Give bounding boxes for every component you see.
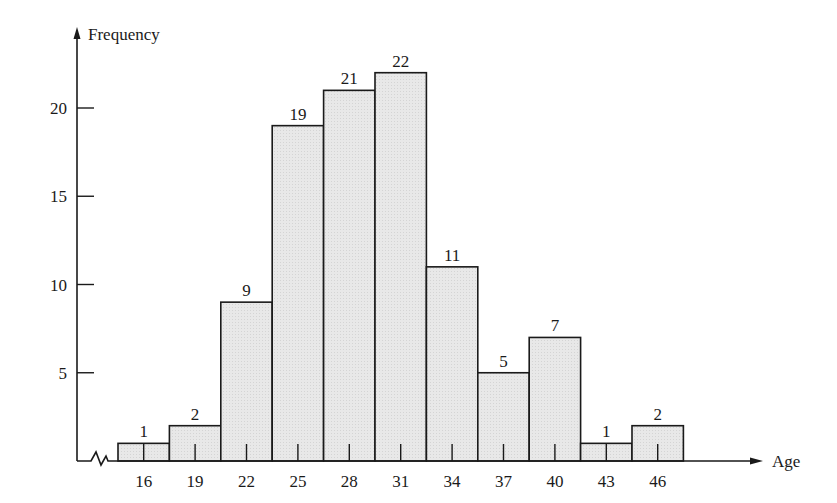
x-axis-arrow-icon	[750, 458, 763, 465]
x-tick-label: 22	[238, 472, 255, 491]
y-tick-label: 5	[59, 364, 68, 383]
bar-40	[529, 337, 580, 461]
y-axis-arrow-icon	[74, 27, 81, 39]
bar-34	[426, 267, 477, 461]
bar-value-label: 11	[444, 246, 460, 265]
x-tick-label: 40	[546, 472, 563, 491]
bars-group	[118, 73, 683, 461]
x-tick-label: 46	[649, 472, 666, 491]
bar-value-label: 5	[499, 352, 508, 371]
y-tick-label: 15	[50, 187, 67, 206]
histogram-chart: 129192122115712 1619222528313437404346 5…	[0, 0, 837, 503]
bar-22	[221, 302, 272, 461]
bar-28	[324, 90, 375, 461]
bar-value-label: 7	[551, 316, 560, 335]
y-tick-label: 20	[50, 99, 67, 118]
bar-value-label: 22	[392, 52, 409, 71]
bar-value-label: 2	[191, 405, 200, 424]
x-axis-title: Age	[772, 452, 800, 471]
bar-value-label: 1	[602, 422, 611, 441]
y-axis-title: Frequency	[88, 25, 160, 44]
x-tick-label: 28	[341, 472, 358, 491]
bar-value-label: 1	[139, 422, 148, 441]
bar-value-label: 19	[289, 105, 306, 124]
y-tick-label: 10	[50, 276, 67, 295]
x-tick-label: 43	[598, 472, 615, 491]
x-tick-label: 34	[444, 472, 462, 491]
bar-31	[375, 73, 426, 461]
bar-25	[272, 126, 323, 461]
x-tick-label: 19	[187, 472, 204, 491]
x-tick-label: 25	[289, 472, 306, 491]
bar-value-label: 2	[653, 405, 662, 424]
bar-value-label: 9	[242, 281, 251, 300]
x-tick-label: 16	[135, 472, 152, 491]
y-axis-ticks: 5101520	[50, 99, 94, 383]
x-axis-tick-labels: 1619222528313437404346	[135, 472, 666, 491]
x-tick-label: 37	[495, 472, 513, 491]
x-tick-label: 31	[392, 472, 409, 491]
bar-value-label: 21	[341, 69, 358, 88]
